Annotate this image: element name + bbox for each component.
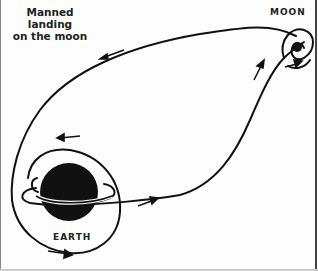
diagram-canvas: Manned landing on the moon (0, 0, 318, 271)
moon-body (292, 42, 302, 52)
return-trajectory (12, 27, 296, 253)
earth-label: EARTH (53, 232, 91, 242)
earth-body (40, 163, 98, 221)
trajectory-drawing (0, 0, 318, 271)
outbound-trajectory (68, 42, 304, 205)
earth-loop (32, 178, 38, 192)
moon-label: MOON (270, 7, 306, 17)
